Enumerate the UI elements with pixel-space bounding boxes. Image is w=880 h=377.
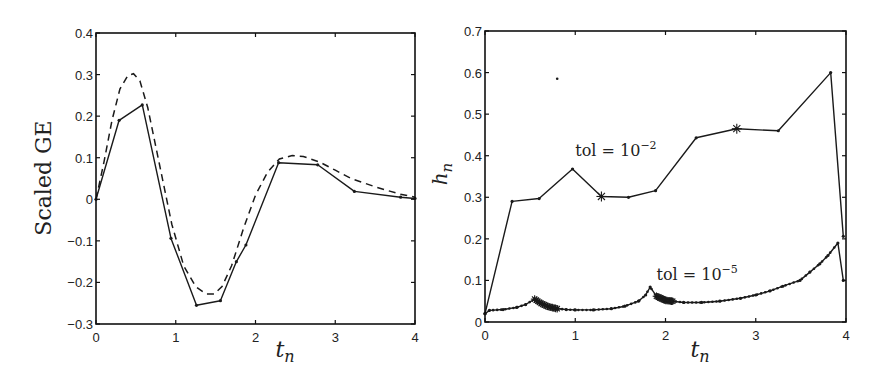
y-tick-label: 0.2 <box>464 232 482 247</box>
data-point <box>644 293 647 296</box>
data-point <box>532 298 535 301</box>
data-point <box>593 309 596 312</box>
data-point <box>524 303 527 306</box>
data-point <box>141 103 144 106</box>
data-point <box>817 264 820 267</box>
data-point <box>764 291 767 294</box>
data-point <box>581 309 584 312</box>
data-point <box>219 299 222 302</box>
data-point <box>536 300 539 303</box>
y-axis-label-subscript: n <box>438 163 456 173</box>
data-point <box>553 307 556 310</box>
data-point <box>740 297 743 300</box>
data-point <box>545 304 548 307</box>
data-point <box>561 308 564 311</box>
data-point <box>829 71 832 74</box>
data-point <box>516 306 519 309</box>
data-point <box>488 309 491 312</box>
x-axis-label: tn <box>690 337 709 366</box>
data-point <box>195 304 198 307</box>
data-point <box>800 278 803 281</box>
annotation-exponent: −2 <box>640 139 656 152</box>
x-axis-label-main: t <box>690 337 699 362</box>
data-point <box>169 237 172 240</box>
data-point <box>711 300 714 303</box>
data-point <box>735 298 738 301</box>
data-point <box>666 299 669 302</box>
left-plot-scaled-ge: 01234−0.3−0.2−0.100.10.20.30.4tnScaled G… <box>31 26 419 366</box>
data-point <box>646 291 649 294</box>
data-point <box>618 306 621 309</box>
y-tick-label: 0.4 <box>464 149 482 164</box>
chart-canvas: 01234−0.3−0.2−0.100.10.20.30.4tnScaled G… <box>0 0 880 377</box>
x-tick-label: 1 <box>172 330 179 345</box>
data-point <box>809 271 812 274</box>
data-point <box>504 308 507 311</box>
x-tick-label: 4 <box>411 330 418 345</box>
data-point <box>792 281 795 284</box>
data-point <box>805 274 808 277</box>
data-point <box>610 307 613 310</box>
data-point <box>650 288 653 291</box>
data-point <box>627 196 630 199</box>
data-point <box>316 163 319 166</box>
data-point <box>662 298 665 301</box>
data-point <box>520 305 523 308</box>
data-point <box>626 304 629 307</box>
x-tick-label: 0 <box>481 328 488 343</box>
data-point <box>829 251 832 254</box>
y-tick-label: −0.1 <box>67 234 93 249</box>
data-point <box>744 296 747 299</box>
data-point <box>699 301 702 304</box>
x-tick-label: 2 <box>662 328 669 343</box>
y-tick-label: 0.1 <box>464 273 482 288</box>
data-point <box>577 309 580 312</box>
data-point <box>549 306 552 309</box>
data-point <box>569 308 572 311</box>
data-point <box>788 283 791 286</box>
data-point <box>821 260 824 263</box>
x-tick-label: 3 <box>332 330 339 345</box>
data-point <box>597 308 600 311</box>
data-point <box>606 308 609 311</box>
y-tick-label: 0 <box>475 315 482 330</box>
data-point <box>634 301 637 304</box>
x-tick-label: 1 <box>572 328 579 343</box>
series-line-1 <box>96 74 415 294</box>
data-point <box>836 241 839 244</box>
y-tick-label: 0.3 <box>75 68 93 83</box>
data-point <box>727 299 730 302</box>
y-tick-label: −0.3 <box>67 317 93 332</box>
data-point <box>601 308 604 311</box>
data-point <box>277 161 280 164</box>
x-tick-label: 2 <box>252 330 259 345</box>
y-tick-label: 0.7 <box>464 24 482 39</box>
y-axis-label: hn <box>428 163 456 186</box>
y-tick-label: −0.2 <box>67 275 93 290</box>
x-axis-label-main: t <box>275 337 284 362</box>
x-axis-label: tn <box>275 337 294 366</box>
data-point <box>118 119 121 122</box>
data-point <box>399 196 402 199</box>
data-point <box>642 296 645 299</box>
series-line-0 <box>96 105 415 305</box>
data-point <box>756 293 759 296</box>
data-point <box>571 167 574 170</box>
data-point <box>654 189 657 192</box>
data-point <box>748 295 751 298</box>
stray-point <box>556 78 559 81</box>
axes-frame <box>96 33 415 324</box>
annotation-text: tol = 10 <box>656 265 721 284</box>
data-point <box>496 309 499 312</box>
data-point <box>508 307 511 310</box>
y-axis-label: Scaled GE <box>31 120 56 235</box>
data-point <box>695 136 698 139</box>
data-point <box>703 301 706 304</box>
data-point <box>731 298 734 301</box>
data-point <box>784 284 787 287</box>
data-point <box>780 285 783 288</box>
data-point <box>671 300 674 303</box>
data-point <box>707 301 710 304</box>
data-point <box>589 309 592 312</box>
data-point <box>353 190 356 193</box>
